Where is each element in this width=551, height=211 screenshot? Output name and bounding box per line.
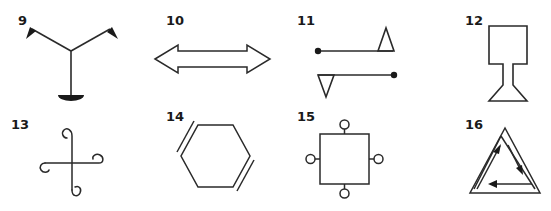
curled-cross-icon bbox=[0, 105, 140, 211]
figure-14: 14 bbox=[140, 105, 290, 211]
goblet-shape-icon bbox=[430, 0, 551, 105]
figure-11: 11 bbox=[290, 0, 440, 105]
y-flag-symbol-icon bbox=[0, 0, 140, 105]
figure-15: 15 bbox=[290, 105, 440, 211]
figure-16: 16 bbox=[430, 105, 551, 211]
parallel-lines-triangles-icon bbox=[290, 0, 440, 105]
square-with-circles-icon bbox=[290, 105, 440, 211]
figure-10: 10 bbox=[140, 0, 290, 105]
figure-13: 13 bbox=[0, 105, 140, 211]
figure-12: 12 bbox=[430, 0, 551, 105]
triangle-cycle-arrows-icon bbox=[430, 105, 551, 211]
figure-9: 9 bbox=[0, 0, 140, 105]
double-arrow-icon bbox=[140, 0, 290, 105]
hexagon-double-bond-icon bbox=[140, 105, 290, 211]
